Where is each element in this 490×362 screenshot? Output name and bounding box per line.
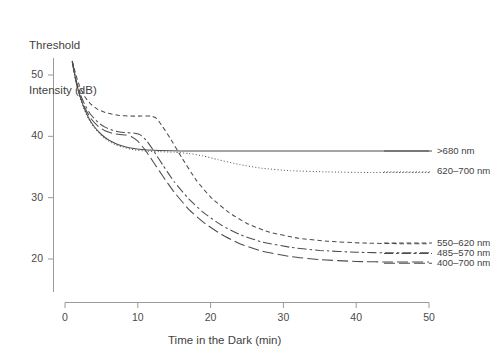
x-axis-title: Time in the Dark (min)	[168, 333, 281, 348]
series-line-680-nm	[72, 62, 429, 152]
data-series-lines	[72, 61, 429, 262]
legend-label: 620–700 nm	[437, 165, 490, 176]
x-axis-tick-label: 50	[416, 311, 442, 323]
series-line-485-570-nm	[72, 62, 429, 253]
x-axis-tick-label: 10	[125, 311, 151, 323]
series-line-620-700-nm	[72, 62, 429, 173]
y-axis-tick-label: 20	[21, 252, 43, 264]
series-line-550-620-nm	[72, 61, 429, 244]
series-line-400-700-nm	[72, 62, 429, 262]
legend-label: 400–700 nm	[437, 257, 490, 268]
y-axis-title-line-1: Threshold	[29, 38, 97, 53]
x-axis-tick-label: 30	[270, 311, 296, 323]
x-axis-tick-label: 20	[198, 311, 224, 323]
legend-line-samples	[384, 151, 432, 263]
x-axis-tick-label: 0	[52, 311, 78, 323]
y-axis-title-line-2: Intensity (dB)	[29, 83, 97, 98]
x-axis-tick-label: 40	[343, 311, 369, 323]
axis-lines	[48, 58, 429, 308]
y-axis-tick-label: 50	[21, 68, 43, 80]
y-axis-tick-label: 30	[21, 191, 43, 203]
legend-label: 550–620 nm	[437, 237, 490, 248]
legend-label: >680 nm	[437, 145, 475, 156]
y-axis-tick-label: 40	[21, 129, 43, 141]
